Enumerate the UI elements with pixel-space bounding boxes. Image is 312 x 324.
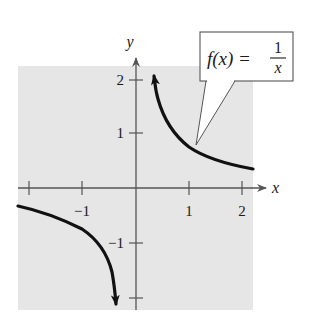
- x-axis-label: x: [271, 179, 279, 196]
- x-tick-label-2: 2: [238, 203, 246, 219]
- callout-function-lhs: f(x) =: [207, 48, 251, 70]
- x-tick-label-neg1: −1: [74, 203, 90, 219]
- y-tick-label-neg1: −1: [108, 235, 124, 251]
- x-tick-label-1: 1: [185, 203, 193, 219]
- graph-figure: −1 1 2 2 1 −1 x y f(x) = 1 x: [0, 0, 312, 324]
- y-axis-label: y: [124, 33, 134, 51]
- y-tick-label-2: 2: [117, 72, 125, 88]
- callout-fraction-numerator: 1: [274, 39, 282, 56]
- callout-fraction-denominator: x: [273, 59, 281, 76]
- y-tick-label-1: 1: [117, 125, 125, 141]
